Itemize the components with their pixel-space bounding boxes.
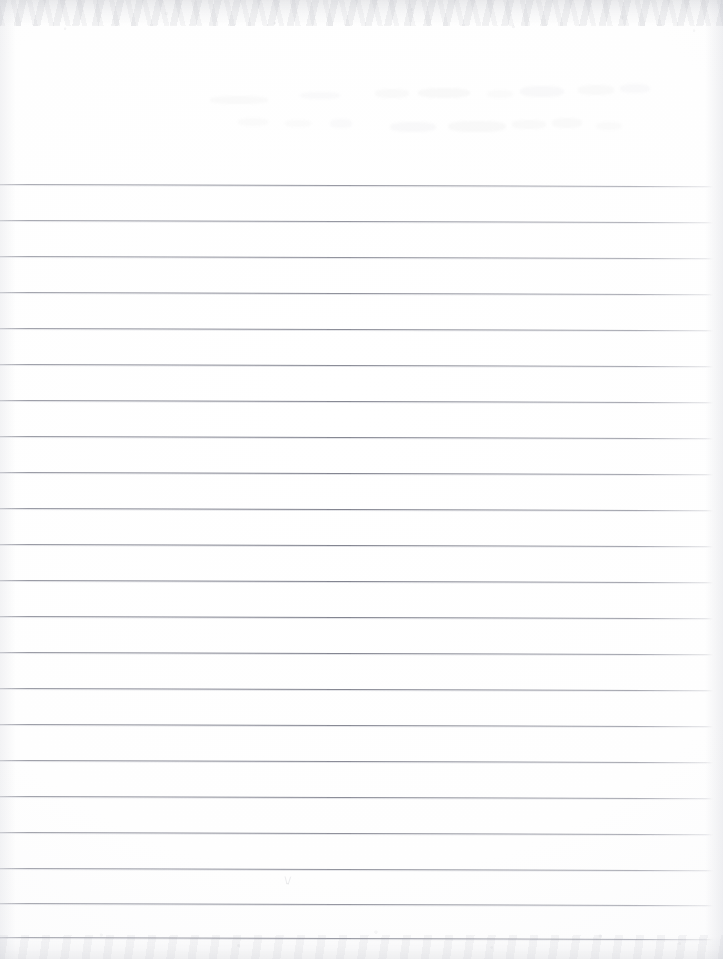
rule-line [0, 688, 713, 691]
rule-line [0, 616, 713, 619]
rule-line [0, 724, 713, 727]
rule-line [0, 364, 713, 367]
rule-line [0, 292, 713, 295]
rule-line [0, 328, 713, 331]
rule-line [0, 256, 713, 259]
scanned-page [0, 0, 723, 959]
rule-line [0, 544, 713, 547]
rule-line [0, 508, 713, 511]
rule-line [0, 580, 713, 583]
rule-line [0, 184, 713, 187]
rule-line [0, 832, 713, 835]
rule-line [0, 868, 713, 871]
ruled-lines-area [0, 0, 723, 959]
rule-line [0, 472, 713, 475]
rule-line [0, 937, 713, 940]
rule-line [0, 220, 713, 223]
rule-line [0, 903, 713, 906]
rule-line [0, 652, 713, 655]
rule-line [0, 436, 713, 439]
rule-line [0, 760, 713, 763]
rule-line [0, 400, 713, 403]
rule-line [0, 796, 713, 799]
